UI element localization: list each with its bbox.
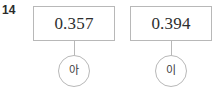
- value-text: 0.394: [130, 6, 212, 41]
- value-text: 0.357: [33, 6, 115, 41]
- problem-number: 14: [2, 2, 24, 18]
- value-node-group-2: 0.394 이: [130, 0, 212, 88]
- connector-line: [74, 41, 75, 56]
- value-node-group-1: 0.357 아: [33, 0, 115, 88]
- connector-line: [171, 41, 172, 56]
- label-circle-text: 이: [155, 55, 187, 87]
- label-circle-text: 아: [58, 55, 90, 87]
- worksheet-problem-canvas: 14 0.357 아 0.394 이: [0, 0, 212, 88]
